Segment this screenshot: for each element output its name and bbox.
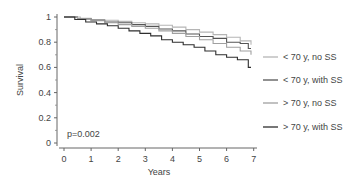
y-tick-label: 0.8 <box>38 37 51 47</box>
legend: < 70 y, no SS< 70 y, with SS> 70 y, no S… <box>263 52 343 132</box>
legend-label: > 70 y, no SS <box>283 98 337 108</box>
survival-chart: 00.20.40.60.81 01234567 Survival Years p… <box>0 0 355 189</box>
survival-curves <box>64 17 251 67</box>
y-tick-label: 0.4 <box>38 88 51 98</box>
x-tick-label: 4 <box>170 154 175 164</box>
y-ticks: 00.20.40.60.81 <box>38 12 57 148</box>
x-tick-label: 0 <box>61 154 66 164</box>
y-tick-label: 0.2 <box>38 113 51 123</box>
x-tick-label: 1 <box>89 154 94 164</box>
x-tick-label: 6 <box>224 154 229 164</box>
legend-item: < 70 y, no SS <box>263 52 337 62</box>
x-tick-label: 3 <box>143 154 148 164</box>
legend-label: < 70 y, no SS <box>283 52 337 62</box>
y-tick-label: 0 <box>46 138 51 148</box>
legend-label: < 70 y, with SS <box>283 75 343 85</box>
x-tick-label: 7 <box>251 154 256 164</box>
legend-item: < 70 y, with SS <box>263 75 343 85</box>
x-tick-label: 5 <box>197 154 202 164</box>
legend-label: > 70 y, with SS <box>283 122 343 132</box>
x-ticks: 01234567 <box>61 148 256 164</box>
y-tick-label: 0.6 <box>38 62 51 72</box>
legend-item: > 70 y, with SS <box>263 122 343 132</box>
y-tick-label: 1 <box>46 12 51 22</box>
legend-item: > 70 y, no SS <box>263 98 337 108</box>
survival-curve-4 <box>64 17 251 67</box>
y-axis-label: Survival <box>15 64 25 96</box>
x-tick-label: 2 <box>116 154 121 164</box>
p-value-annotation: p=0.002 <box>67 129 100 139</box>
x-axis-label: Years <box>148 167 171 177</box>
